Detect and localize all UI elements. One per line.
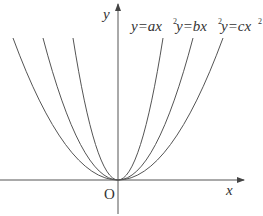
label-c: y=cx 2 bbox=[219, 17, 262, 34]
label-b: y=bx 2 bbox=[174, 17, 222, 34]
origin-label: O bbox=[104, 186, 115, 202]
svg-text:y=cx: y=cx bbox=[219, 18, 251, 34]
svg-text:2: 2 bbox=[258, 17, 262, 26]
x-axis-label: x bbox=[225, 182, 233, 198]
svg-text:y=ax: y=ax bbox=[129, 18, 162, 34]
parabola-diagram: y x O y=ax 2 y=bx 2 y=cx 2 bbox=[0, 0, 263, 216]
svg-text:y=bx: y=bx bbox=[174, 18, 207, 34]
label-a: y=ax 2 bbox=[129, 17, 177, 34]
y-axis-label: y bbox=[101, 6, 110, 22]
